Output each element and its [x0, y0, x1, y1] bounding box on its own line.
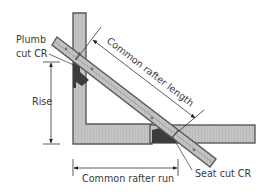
nail-dot — [91, 68, 94, 71]
rafter-diagram: Plumb cut CR Rise Common rafter length C… — [0, 0, 265, 196]
plumb-cut-label-line1: Plumb — [16, 34, 46, 45]
rise-label: Rise — [32, 96, 52, 107]
nail-dot — [65, 48, 68, 51]
common-rafter-run-label: Common rafter run — [82, 173, 174, 184]
plumb-cut-label-line2: cut CR — [16, 48, 48, 59]
nail-dot — [151, 117, 154, 120]
seat-cut-label: Seat cut CR — [195, 168, 252, 179]
common-rafter-length-label: Common rafter length — [105, 35, 196, 109]
nail-dot — [193, 149, 196, 152]
